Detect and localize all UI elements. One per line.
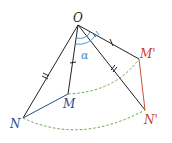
label-M: M xyxy=(62,97,76,111)
segment-MprimeNprime xyxy=(139,59,145,110)
label-Nprime: N' xyxy=(143,113,158,127)
label-O: O xyxy=(73,11,83,25)
label-Mprime: M' xyxy=(139,47,156,61)
arc-N-to-Nprime xyxy=(23,110,145,130)
tick-OM xyxy=(70,62,76,63)
label-N: N xyxy=(9,117,21,131)
segment-ONprime xyxy=(78,25,145,110)
tick-OMprime xyxy=(110,39,113,46)
segment-OM xyxy=(68,25,78,94)
angle-label-alpha: α xyxy=(81,49,89,62)
angle-tick-2 xyxy=(96,31,99,35)
tick-ON-1 xyxy=(43,73,49,76)
rotation-diagram: O M N M' N' α xyxy=(0,0,172,143)
